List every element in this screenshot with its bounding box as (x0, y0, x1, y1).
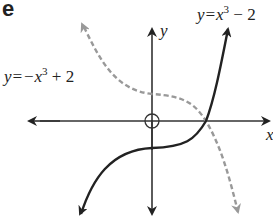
curve-neg-cubic (84, 27, 238, 212)
graph (0, 0, 273, 219)
figure: e y x y=x3 − 2 y=−x3 + 2 (0, 0, 273, 219)
x-axis-label: x (266, 125, 273, 145)
curve-label-cubic: y=x3 − 2 (197, 3, 256, 25)
curve-label-neg-cubic: y=−x3 + 2 (4, 65, 74, 87)
y-axis-label: y (160, 21, 168, 41)
